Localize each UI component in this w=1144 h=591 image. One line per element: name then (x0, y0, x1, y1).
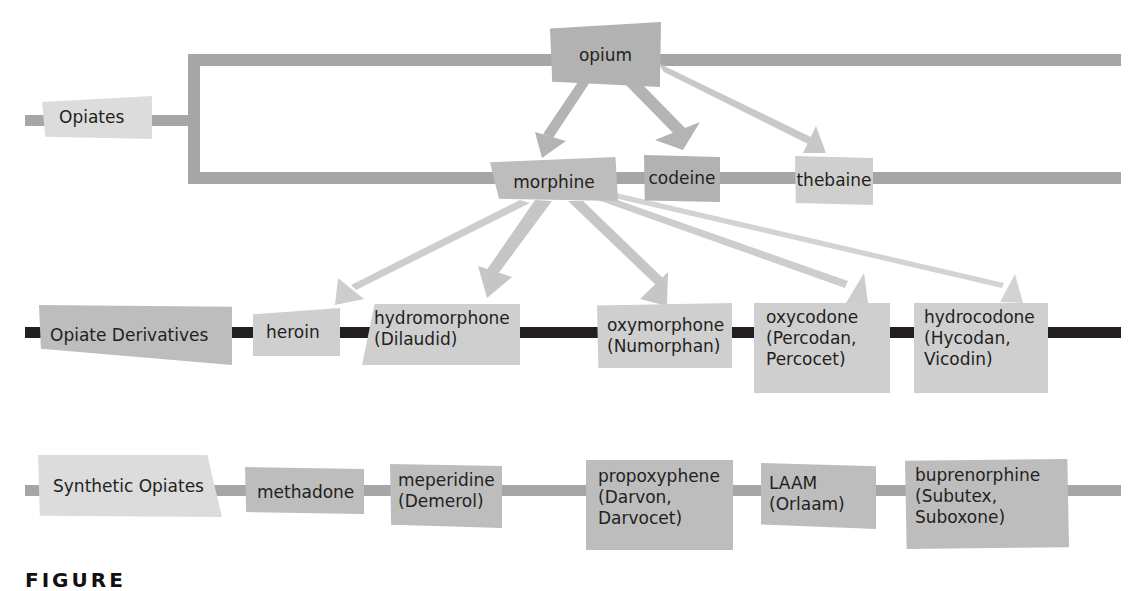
node-opiates: Opiates (42, 96, 152, 139)
node-label: hydrocodone (Hycodan, Vicodin) (924, 307, 1035, 370)
node-label: methadone (257, 482, 354, 503)
node-oxymorphone: oxymorphone (Numorphan) (597, 303, 732, 368)
arrow-opium-morphine (535, 82, 590, 158)
node-synthetic-opiates: Synthetic Opiates (38, 455, 222, 517)
node-label: hydromorphone (Dilaudid) (374, 308, 510, 350)
arrow-opium-codeine (623, 82, 700, 150)
arrow-morphine-oxycodone (595, 195, 868, 303)
bracket-vertical-line (188, 54, 200, 184)
node-codeine: codeine (644, 155, 720, 202)
node-label: thebaine (796, 170, 871, 191)
node-heroin: heroin (253, 308, 340, 356)
node-label: meperidine (Demerol) (398, 470, 495, 512)
node-label: morphine (513, 172, 594, 193)
node-label: opium (579, 45, 632, 66)
node-hydrocodone: hydrocodone (Hycodan, Vicodin) (914, 303, 1048, 393)
node-opium: opium (550, 22, 661, 87)
node-laam: LAAM (Orlaam) (761, 463, 876, 529)
arrow-morphine-hydrocodone (606, 192, 1023, 303)
node-meperidine: meperidine (Demerol) (390, 464, 502, 528)
node-hydromorphone: hydromorphone (Dilaudid) (362, 304, 520, 365)
node-oxycodone: oxycodone (Percodan, Percocet) (754, 303, 890, 393)
node-thebaine: thebaine (795, 156, 873, 205)
node-label: LAAM (Orlaam) (769, 473, 845, 515)
node-label: oxycodone (Percodan, Percocet) (766, 307, 858, 370)
node-label: Opiates (59, 107, 124, 128)
arrow-morphine-hydromorphone (478, 200, 552, 298)
node-propoxyphene: propoxyphene (Darvon, Darvocet) (586, 460, 733, 550)
node-label: oxymorphone (Numorphan) (607, 315, 724, 357)
node-label: heroin (266, 322, 320, 343)
node-label: buprenorphine (Subutex, Suboxone) (915, 465, 1040, 528)
node-label: Synthetic Opiates (53, 476, 204, 497)
node-morphine: morphine (490, 157, 618, 201)
node-buprenorphine: buprenorphine (Subutex, Suboxone) (905, 459, 1069, 549)
figure-caption: FIGURE (25, 570, 126, 590)
node-label: Opiate Derivatives (50, 325, 208, 346)
node-label: codeine (649, 168, 716, 189)
node-methadone: methadone (245, 467, 364, 514)
node-label: propoxyphene (Darvon, Darvocet) (598, 466, 720, 529)
